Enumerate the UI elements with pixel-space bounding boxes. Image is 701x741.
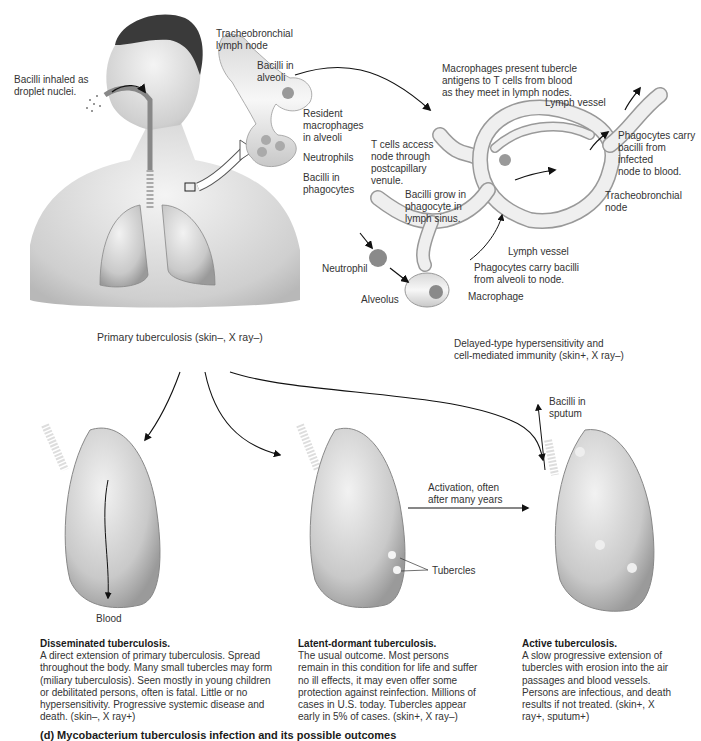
label-neutrophils: Neutrophils [303,152,354,164]
outcome-disseminated: Disseminated tuberculosis. A direct exte… [40,638,275,723]
outcome-title: Disseminated tuberculosis. [40,638,275,650]
label-tracheobronchial-lymph-node: Tracheobronchial lymph node [216,28,293,52]
disseminated-lung-illustration [45,425,160,608]
outcome-latent: Latent-dormant tuberculosis. The usual o… [298,638,478,723]
label-macrophage: Macrophage [468,291,524,303]
label-bacilli-grow: Bacilli grow in phagocyte in lymph sinus… [405,189,466,225]
label-lymph-vessel-top: Lymph vessel [545,97,606,109]
figure-caption: (d) Mycobacterium tuberculosis infection… [40,729,396,741]
latent-lung-illustration [300,425,428,608]
outcome-text: A direct extension of primary tuberculos… [40,650,272,722]
label-bacilli-in-alveoli: Bacilli in alveoli [257,60,294,84]
outcome-text: The usual outcome. Most persons remain i… [298,650,477,722]
label-lymph-vessel-bottom: Lymph vessel [508,246,569,258]
label-phagocytes-carry-blood: Phagocytes carry bacilli from infected n… [618,130,695,178]
label-macrophages-present: Macrophages present tubercle antigens to… [442,63,577,99]
outcome-title: Active tuberculosis. [522,638,672,650]
label-tubercles: Tubercles [432,565,476,577]
label-tracheobronchial-node: Tracheobronchial node [605,190,682,214]
label-phagocytes-carry-node: Phagocytes carry bacilli from alveoli to… [474,262,579,286]
outcome-text: A slow progressive extension of tubercle… [522,650,671,722]
caption-delayed-hypersensitivity: Delayed-type hypersensitivity and cell-m… [454,338,624,362]
active-lung-illustration [538,405,654,611]
label-t-cells-access: T cells access node through postcapillar… [371,139,434,187]
alveoli-cluster-illustration [219,34,312,166]
label-neutrophil: Neutrophil [322,263,368,275]
outcome-title: Latent-dormant tuberculosis. [298,638,478,650]
label-blood: Blood [96,613,122,625]
label-resident-macrophages: Resident macrophages in alveoli [303,108,364,144]
label-bacilli-in-sputum: Bacilli in sputum [549,396,586,420]
caption-primary-tuberculosis: Primary tuberculosis (skin–, X ray–) [97,331,263,344]
label-activation: Activation, often after many years [428,482,502,506]
label-bacilli-in-phagocytes: Bacilli in phagocytes [303,172,354,196]
outcome-active: Active tuberculosis. A slow progressive … [522,638,672,723]
label-alveolus: Alveolus [361,294,399,306]
label-bacilli-inhaled: Bacilli inhaled as droplet nuclei. [14,74,89,98]
